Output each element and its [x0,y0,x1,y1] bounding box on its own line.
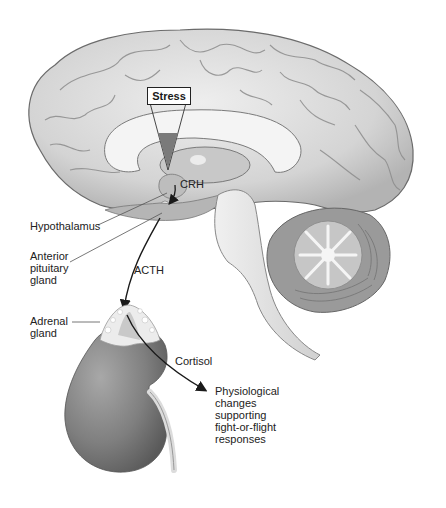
crh-label: CRH [180,178,204,190]
acth-label: ACTH [134,264,164,276]
cortisol-label: Cortisol [175,355,212,367]
adrenal-gland [100,305,160,346]
stress-label-box: Stress [147,87,191,105]
hypothalamus-label: Hypothalamus [30,220,100,232]
thalamus-highlight [190,155,206,165]
adrenal-gland-label: Adrenal gland [30,315,80,339]
kidney [65,326,174,472]
cerebellum [267,208,390,312]
acth-arrow [124,218,160,308]
anterior-pituitary-label: Anterior pituitary gland [30,250,90,286]
outcome-label: Physiological changes supporting fight-o… [215,385,305,445]
stress-label: Stress [152,90,186,102]
